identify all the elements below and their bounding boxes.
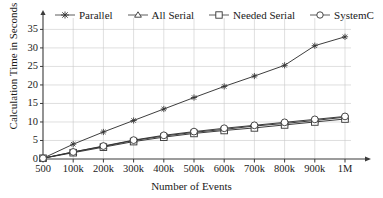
plot-area [0,0,383,198]
chart-container: Parallel All Serial Needed Serial System… [0,0,383,198]
